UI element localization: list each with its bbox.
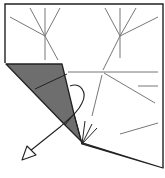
step-caption: [0, 171, 165, 178]
crease-starburst-right: [103, 8, 158, 70]
crease-starburst-left: [10, 8, 60, 60]
origami-diagram: [0, 0, 165, 178]
